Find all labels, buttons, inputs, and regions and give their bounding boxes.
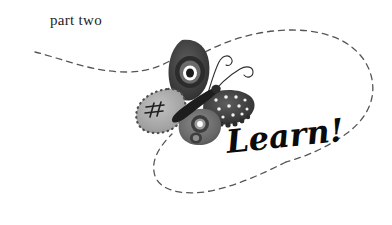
part-label: part two (50, 13, 102, 28)
illustration-page: part two Learn! (0, 0, 392, 225)
lower-left-wing (136, 89, 185, 133)
